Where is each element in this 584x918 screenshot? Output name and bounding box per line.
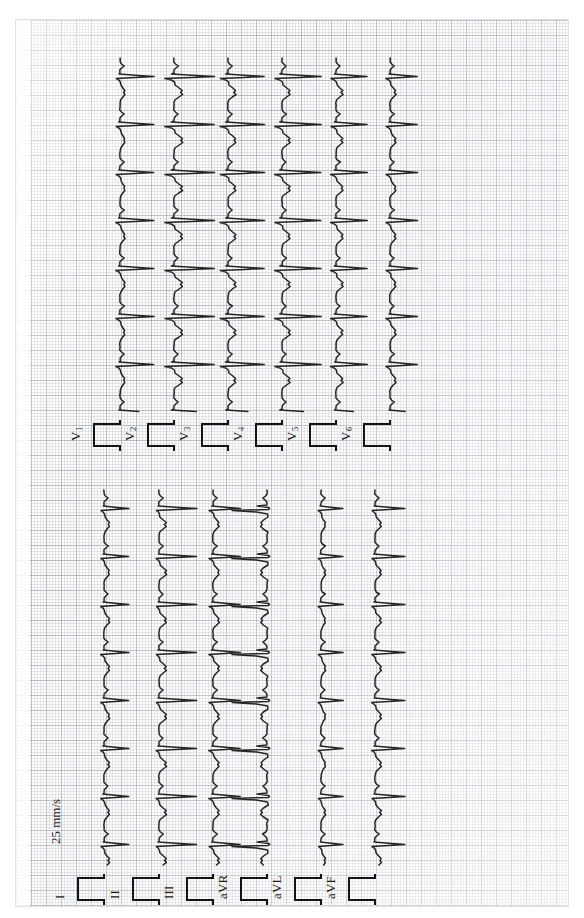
- ecg-trace-i: [78, 490, 129, 905]
- lead-label-aVR: aVR: [216, 875, 229, 899]
- lead-label-III: III: [162, 885, 175, 899]
- ecg-trace-v3: [202, 58, 265, 451]
- calibration-pulse-v4: [256, 420, 282, 451]
- lead-label-I: I: [53, 894, 66, 899]
- calibration-pulse-v6: [364, 420, 390, 451]
- calibration-pulse-v2: [148, 420, 174, 451]
- lead-label-subscript: 2: [128, 426, 138, 430]
- lead-label-subscript: 4: [236, 426, 246, 430]
- calibration-pulse-iii: [187, 874, 213, 905]
- lead-label-V4: V4: [231, 427, 244, 441]
- lead-label-subscript: 6: [344, 426, 354, 430]
- lead-label-subscript: 1: [74, 426, 84, 430]
- calibration-pulse-ii: [133, 874, 159, 905]
- calibration-pulse-avf: [349, 874, 375, 905]
- ecg-waveforms: [16, 20, 568, 906]
- calibration-pulse-i: [78, 874, 104, 905]
- lead-label-V3: V3: [177, 427, 190, 441]
- calibration-pulse-avr: [241, 874, 267, 905]
- ecg-trace-v1: [94, 58, 154, 451]
- calibration-pulse-v1: [94, 420, 120, 451]
- ecg-trace-v2: [148, 58, 215, 451]
- paper-speed-label: 25 mm/s: [49, 799, 62, 844]
- calibration-pulse-v5: [310, 420, 336, 451]
- ecg-trace-ii: [133, 490, 197, 905]
- ecg-trace-v6: [364, 58, 418, 451]
- ecg-trace-v5: [310, 58, 367, 451]
- lead-label-V5: V5: [285, 427, 298, 441]
- ecg-screenshot: 25 mm/s I II III aVR aVL aVF V1 V2 V3 V4…: [0, 0, 584, 918]
- ecg-trace-avr: [232, 490, 270, 905]
- lead-label-aVF: aVF: [324, 876, 337, 899]
- ecg-trace-v4: [256, 58, 321, 451]
- lead-label-V6: V6: [339, 427, 352, 441]
- calibration-pulse-v3: [202, 420, 228, 451]
- lead-label-subscript: 5: [290, 426, 300, 430]
- lead-label-II: II: [108, 890, 121, 899]
- ecg-trace-avl: [295, 490, 343, 905]
- lead-label-V1: V1: [69, 427, 82, 441]
- ecg-trace-layer: [16, 20, 568, 906]
- lead-label-V2: V2: [123, 427, 136, 441]
- lead-label-aVL: aVL: [270, 875, 283, 899]
- ecg-trace-iii: [187, 490, 240, 905]
- ecg-trace-avf: [349, 490, 405, 905]
- lead-label-subscript: 3: [182, 426, 192, 430]
- calibration-pulse-avl: [295, 874, 321, 905]
